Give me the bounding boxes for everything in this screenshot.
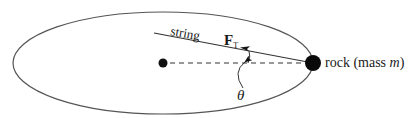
string-label: string <box>169 23 201 43</box>
theta-pointer-line <box>238 62 245 88</box>
tension-force-label: FT <box>224 32 238 50</box>
center-point <box>159 59 168 68</box>
rock <box>305 55 321 71</box>
theta-label: θ <box>237 87 245 103</box>
diagram-canvas: string FT rock (mass m) θ <box>0 0 414 118</box>
angle-arc <box>248 51 250 63</box>
rock-label: rock (mass m) <box>325 55 405 71</box>
